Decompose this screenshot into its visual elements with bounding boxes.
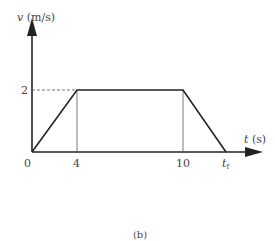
- origin-label: 0: [24, 157, 31, 170]
- x-axis-label: t (s): [244, 133, 266, 146]
- y-axis-label: v (m/s): [17, 11, 55, 24]
- x-tick-4: 4: [73, 157, 80, 170]
- velocity-curve: [32, 90, 226, 152]
- x-axis-arrow-icon: [245, 147, 263, 157]
- velocity-time-chart: v (m/s) 2 0 4 10 tf t (s) (b): [0, 0, 275, 241]
- x-tick-10: 10: [176, 157, 190, 170]
- y-tick-2: 2: [21, 84, 28, 97]
- x-tick-tf: tf: [222, 157, 230, 171]
- figure-caption: (b): [133, 229, 147, 240]
